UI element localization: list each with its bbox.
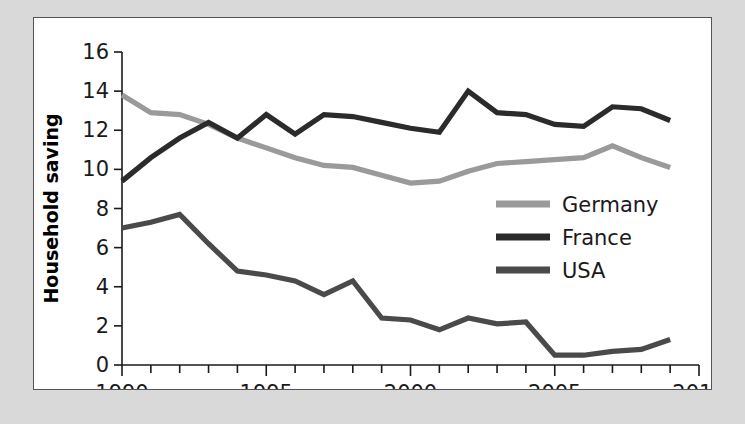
y-axis-tick-label: 10 — [82, 157, 109, 181]
y-axis-tick-label: 0 — [96, 353, 109, 377]
x-axis-tick-label: 1990 — [95, 381, 148, 389]
x-axis-tick-label: 1995 — [240, 381, 293, 389]
y-axis-tick-label: 16 — [82, 40, 109, 64]
y-axis-tick-label: 12 — [82, 118, 109, 142]
x-axis-tick-label: 2005 — [528, 381, 581, 389]
y-axis-tick-label: 2 — [96, 314, 109, 338]
y-axis-tick-label: 14 — [82, 79, 109, 103]
legend-label-germany: Germany — [562, 193, 659, 217]
y-axis-tick-label: 4 — [96, 275, 109, 299]
y-axis-title: Household saving — [40, 113, 62, 303]
line-chart: 024681012141619901995200020052010Househo… — [34, 18, 711, 389]
series-line-germany — [122, 95, 670, 183]
figure-root: 024681012141619901995200020052010Househo… — [0, 0, 745, 424]
y-axis-tick-label: 6 — [96, 236, 109, 260]
x-axis-tick-label: 2000 — [384, 381, 437, 389]
legend-label-france: France — [562, 226, 632, 250]
x-axis-tick-label: 2010 — [672, 381, 711, 389]
y-axis-tick-label: 8 — [96, 197, 109, 221]
series-line-france — [122, 91, 670, 181]
chart-panel: 024681012141619901995200020052010Househo… — [33, 17, 712, 390]
legend-label-usa: USA — [562, 259, 606, 283]
